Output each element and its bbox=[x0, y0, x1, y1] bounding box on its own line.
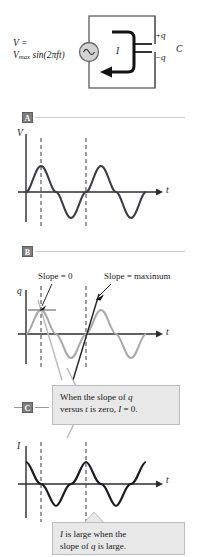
panel-badge-c: C bbox=[22, 402, 33, 413]
equation-line-1: V = bbox=[13, 38, 27, 48]
callout-current-large-line1: is large when the bbox=[63, 529, 126, 539]
callout-slope-zero: When the slope of q versus t is zero, I … bbox=[52, 385, 180, 425]
charge-axis-label: q bbox=[17, 286, 22, 296]
current-x-axis-arrow-icon bbox=[156, 481, 163, 488]
callout-rule-left bbox=[14, 407, 22, 408]
voltage-axis-label: V bbox=[17, 128, 23, 138]
callout-current-large-line2: slope of bbox=[60, 541, 91, 551]
slope-maximum-annotation: Slope = maximum bbox=[104, 271, 171, 281]
slope-zero-leader bbox=[42, 284, 55, 306]
capacitor-gap-mask bbox=[153, 44, 157, 52]
separator-rule-b bbox=[35, 251, 185, 252]
charge-time-label: t bbox=[166, 327, 169, 337]
current-time-label: t bbox=[166, 475, 169, 485]
charge-x-axis-arrow-icon bbox=[156, 331, 163, 338]
callout-slope-zero-line2-mid: is zero, bbox=[88, 404, 119, 414]
current-label: I bbox=[116, 46, 119, 56]
voltage-x-axis-arrow-icon bbox=[156, 189, 163, 196]
capacitor-label: C bbox=[176, 44, 182, 54]
panel-badge-a: A bbox=[22, 112, 33, 123]
callout-current-large-line2-end: is large. bbox=[96, 541, 127, 551]
equation-v-subscript: max bbox=[19, 53, 30, 60]
callout-slope-zero-line2-end: = 0. bbox=[121, 404, 137, 414]
charge-positive-label: +q bbox=[155, 30, 166, 40]
callout-slope-zero-line2-text: versus bbox=[60, 404, 85, 414]
equation-sine-term: sin(2πft) bbox=[33, 50, 65, 60]
current-arrowhead-icon bbox=[100, 67, 112, 78]
current-axis-label: I bbox=[17, 441, 20, 451]
callout-rule-right bbox=[35, 407, 49, 408]
charge-negative-label: −q bbox=[155, 52, 166, 62]
ac-capacitor-figure: V = Vmax sin(2πft) I +q −q C A V t B Slo… bbox=[0, 0, 200, 557]
callout-slope-zero-q: q bbox=[128, 392, 133, 402]
slope-zero-annotation: Slope = 0 bbox=[38, 271, 73, 281]
panel-badge-b: B bbox=[22, 246, 33, 257]
slope-maximum-leader bbox=[99, 284, 118, 296]
voltage-plot bbox=[0, 126, 200, 231]
separator-rule-a bbox=[35, 117, 185, 118]
voltage-time-label: t bbox=[166, 185, 169, 195]
callout-current-large: I is large when the slope of q is large. bbox=[52, 522, 185, 555]
source-voltage-equation: V = Vmax sin(2πft) bbox=[13, 38, 85, 62]
callout-slope-zero-line1-text: When the slope of bbox=[60, 392, 128, 402]
